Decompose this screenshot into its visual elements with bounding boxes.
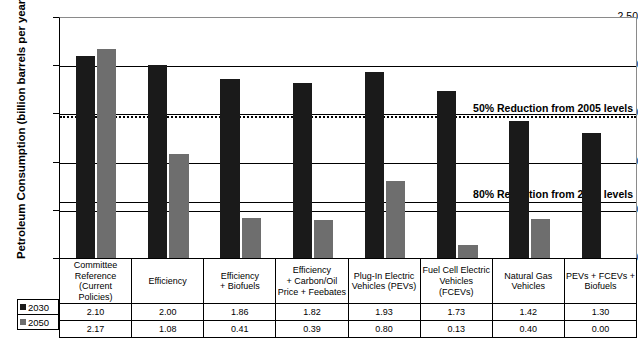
table-cell-value-2050: 0.80 — [348, 321, 420, 338]
bar-2050 — [386, 181, 405, 258]
table-row-2030: 2.102.001.861.821.931.731.421.30 — [60, 304, 637, 321]
category-line: Biofuels — [566, 281, 635, 292]
table-cell-value-2050: 0.00 — [564, 321, 636, 338]
legend-row-2050: 2050 — [18, 315, 59, 330]
bar-2050 — [169, 154, 188, 258]
category-line: Vehicles (FCEVs) — [422, 276, 491, 297]
legend-swatch-icon-2050 — [20, 319, 26, 325]
bar-2030 — [582, 133, 601, 258]
table-cell-value-2030: 1.86 — [204, 304, 276, 321]
category-line: Price + Feebates — [277, 287, 346, 298]
category-line: Efficiency — [277, 265, 346, 276]
table-cell-value-2050: 2.17 — [60, 321, 132, 338]
category-line: + Carbon/Oil — [277, 276, 346, 287]
table-cell-category: CommitteeReference(Current Policies) — [60, 259, 132, 304]
table-cell-category: Natural GasVehicles — [492, 259, 564, 304]
legend-item-2030: 2030 — [18, 300, 59, 315]
table-cell-value-2050: 0.40 — [492, 321, 564, 338]
bar-2050 — [531, 219, 550, 258]
plot-area: 50% Reduction from 2005 levels80% Reduct… — [59, 17, 637, 258]
table-cell-value-2050: 0.41 — [204, 321, 276, 338]
bar-2030 — [220, 79, 239, 258]
category-line: Natural Gas — [494, 271, 563, 282]
bar-group — [421, 18, 493, 258]
bar-group — [60, 18, 132, 258]
table-cell-category: Efficiency — [132, 259, 204, 304]
table-cell-value-2030: 1.82 — [276, 304, 348, 321]
category-line: + Biofuels — [205, 281, 274, 292]
table-cell-category: Efficiency+ Carbon/OilPrice + Feebates — [276, 259, 348, 304]
table-cell-value-2030: 1.73 — [420, 304, 492, 321]
bar-group — [566, 18, 638, 258]
table-row-categories: CommitteeReference(Current Policies)Effi… — [60, 259, 637, 304]
legend-item-2050: 2050 — [18, 315, 59, 330]
bar-2050 — [314, 220, 333, 258]
bar-2050 — [97, 49, 116, 258]
bar-2030 — [148, 65, 167, 258]
category-line: Fuel Cell Electric — [422, 265, 491, 276]
table-cell-category: Plug-In ElectricVehicles (PEVs) — [348, 259, 420, 304]
bar-group — [277, 18, 349, 258]
y-axis-title: Petroleum Consumption (billion barrels p… — [15, 9, 27, 259]
bar-group — [132, 18, 204, 258]
category-line: Vehicles (PEVs) — [350, 281, 419, 292]
bar-2030 — [437, 91, 456, 258]
legend-row-2030: 2030 — [18, 300, 59, 315]
bar-group — [494, 18, 566, 258]
bar-2030 — [365, 72, 384, 258]
table-cell-value-2050: 1.08 — [132, 321, 204, 338]
legend-swatch-icon-2030 — [20, 304, 26, 310]
table-cell-category: Fuel Cell ElectricVehicles (FCEVs) — [420, 259, 492, 304]
data-table: CommitteeReference(Current Policies)Effi… — [59, 258, 637, 338]
category-line: Vehicles — [494, 281, 563, 292]
table-cell-value-2050: 0.39 — [276, 321, 348, 338]
table-cell-value-2050: 0.13 — [420, 321, 492, 338]
category-line: (Current Policies) — [61, 281, 130, 302]
bar-group — [205, 18, 277, 258]
table-cell-category: Efficiency+ Biofuels — [204, 259, 276, 304]
legend-label-2050: 2050 — [28, 317, 49, 328]
bar-2030 — [293, 83, 312, 258]
chart-legend: 2030 2050 — [17, 299, 59, 330]
bar-2050 — [242, 218, 261, 258]
table-cell-value-2030: 2.00 — [132, 304, 204, 321]
bar-group — [349, 18, 421, 258]
bar-2030 — [509, 121, 528, 258]
table-cell-category: PEVs + FCEVs +Biofuels — [564, 259, 636, 304]
table-cell-value-2030: 1.42 — [492, 304, 564, 321]
table-row-2050: 2.171.080.410.390.800.130.400.00 — [60, 321, 637, 338]
table-cell-value-2030: 1.93 — [348, 304, 420, 321]
legend-label-2030: 2030 — [28, 302, 49, 313]
category-line: Reference — [61, 271, 130, 282]
category-line: Efficiency — [205, 271, 274, 282]
category-line: PEVs + FCEVs + — [566, 271, 635, 282]
table-cell-value-2030: 1.30 — [564, 304, 636, 321]
category-line: Committee — [61, 260, 130, 271]
table-cell-value-2030: 2.10 — [60, 304, 132, 321]
category-line: Plug-In Electric — [350, 271, 419, 282]
bar-2050 — [458, 245, 477, 258]
bar-2030 — [76, 56, 95, 258]
category-line: Efficiency — [133, 276, 202, 287]
